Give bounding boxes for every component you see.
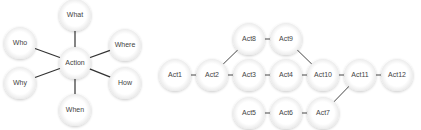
node-act10: Act10 [307,59,339,91]
node-label: Act6 [279,109,293,116]
node-label: What [67,11,83,18]
node-label: Act9 [279,35,293,42]
node-act1: Act1 [159,59,191,91]
diagram-canvas: ActionWhatWhereHowWhenWhyWho Act1Act2Act… [0,0,421,130]
five-w-diagram: ActionWhatWhereHowWhenWhyWho [4,0,141,126]
node-label: Act2 [205,71,219,78]
node-act9: Act9 [270,23,302,55]
node-label: Act3 [242,71,256,78]
node-label: Who [13,39,28,46]
node-act12: Act12 [381,59,413,91]
activity-network: Act1Act2Act3Act4Act5Act6Act7Act8Act9Act1… [159,23,413,129]
node-why: Why [4,67,36,99]
node-label: Action [65,59,85,66]
node-who: Who [4,27,36,59]
node-act7: Act7 [307,97,339,129]
node-label: Why [13,79,28,87]
node-label: Act12 [388,71,406,78]
node-label: Act5 [242,109,256,116]
node-act8: Act8 [233,23,265,55]
node-act11: Act11 [344,59,376,91]
node-act6: Act6 [270,97,302,129]
node-action: Action [59,47,91,79]
node-label: Act4 [279,71,293,78]
node-act3: Act3 [233,59,265,91]
node-where: Where [109,29,141,61]
node-how: How [109,67,141,99]
node-label: Where [115,41,136,48]
node-act2: Act2 [196,59,228,91]
node-label: Act7 [316,109,330,116]
node-act4: Act4 [270,59,302,91]
node-label: When [66,106,84,113]
node-what: What [59,0,91,31]
node-label: Act11 [351,71,368,78]
node-label: Act8 [242,35,256,42]
spoke-who [32,47,64,59]
node-label: How [118,79,133,86]
spoke-why [32,67,64,79]
node-when: When [59,94,91,126]
node-label: Act10 [314,71,332,78]
node-act5: Act5 [233,97,265,129]
node-label: Act1 [168,71,182,78]
